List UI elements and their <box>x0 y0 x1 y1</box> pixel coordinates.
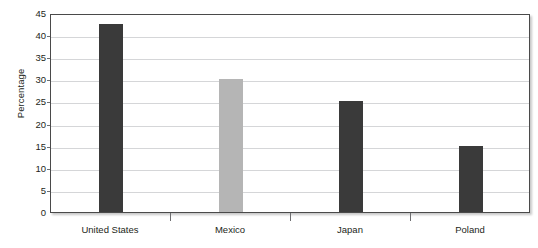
y-axis-tick-label: 40 <box>20 31 46 41</box>
x-axis-category-label: Japan <box>337 224 363 236</box>
x-axis-tick-mark <box>290 213 291 221</box>
y-axis-tick-label: 25 <box>20 97 46 107</box>
x-axis-tick-mark <box>170 213 171 221</box>
bar <box>99 24 123 212</box>
y-axis-tick-label: 20 <box>20 120 46 130</box>
bar <box>219 79 243 212</box>
x-axis-tick-mark <box>410 213 411 221</box>
bar <box>339 101 363 212</box>
y-axis-tick-label: 15 <box>20 142 46 152</box>
y-axis-tick-label: 0 <box>20 208 46 218</box>
y-axis-tick-label: 10 <box>20 164 46 174</box>
plot-area <box>50 14 530 213</box>
y-axis-tick-labels: 051015202530354045 <box>20 14 46 213</box>
bars-group <box>51 15 529 212</box>
y-axis-tick-label: 45 <box>20 9 46 19</box>
y-axis-tick-label: 30 <box>20 75 46 85</box>
x-axis-category-labels: United StatesMexicoJapanPoland <box>50 224 530 240</box>
bar-chart: Percentage 051015202530354045 United Sta… <box>0 0 538 248</box>
x-axis-category-label: Mexico <box>215 224 245 236</box>
x-axis-category-label: Poland <box>455 224 485 236</box>
y-axis-tick-label: 35 <box>20 53 46 63</box>
y-axis-tick-label: 5 <box>20 186 46 196</box>
bar <box>459 146 483 212</box>
x-axis-category-label: United States <box>81 224 138 236</box>
